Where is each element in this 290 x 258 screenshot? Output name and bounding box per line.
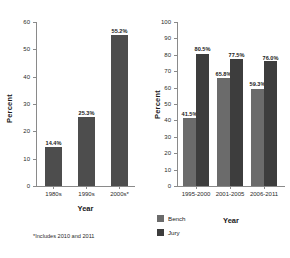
legend-swatch-bench-icon xyxy=(157,215,164,222)
left-plot-area: Percent 60 50 40 30 20 10 0 14.4% xyxy=(0,0,145,258)
right-y-tick xyxy=(174,170,177,171)
left-x-tick-label-1990s: 1990s xyxy=(68,191,105,198)
left-bar-2000s xyxy=(111,35,128,186)
left-y-tick xyxy=(33,131,36,132)
legend-label-bench: Bench xyxy=(168,214,186,223)
left-y-axis-line xyxy=(36,22,37,186)
right-bar-bench-2001-2005 xyxy=(217,78,230,186)
left-chart-footnote: *Includes 2010 and 2011 xyxy=(33,233,94,239)
left-y-tick-label: 0 xyxy=(8,183,30,189)
right-bar-bench-2006-2011 xyxy=(251,89,264,186)
left-y-tick xyxy=(33,159,36,160)
left-y-tick-label: 10 xyxy=(8,156,30,162)
right-x-tick xyxy=(264,186,265,189)
left-y-tick-label: 50 xyxy=(8,46,30,52)
left-x-tick xyxy=(53,186,54,189)
left-y-tick xyxy=(33,104,36,105)
right-y-tick-label: 0 xyxy=(149,183,171,189)
left-bar-1990s xyxy=(78,117,95,186)
right-y-tick-label: 40 xyxy=(149,117,171,123)
left-y-tick-label: 20 xyxy=(8,128,30,134)
right-y-tick xyxy=(174,153,177,154)
right-y-axis-line xyxy=(177,22,178,186)
right-bar-jury-2006-2011 xyxy=(264,61,277,186)
right-y-tick xyxy=(174,71,177,72)
left-y-tick xyxy=(33,77,36,78)
right-x-tick-label-2006-2011: 2006-2011 xyxy=(243,191,285,198)
left-x-tick xyxy=(119,186,120,189)
right-y-tick xyxy=(174,120,177,121)
right-bar-value-jury-2006-2011: 76.0% xyxy=(255,55,286,61)
right-plot-area: Percent 100 90 80 70 60 50 40 30 20 10 xyxy=(145,0,290,258)
left-bar-value-1980s: 14.4% xyxy=(35,140,72,146)
legend-swatch-jury-icon xyxy=(157,229,164,236)
right-y-tick xyxy=(174,137,177,138)
left-bar-value-2000s: 55.2% xyxy=(101,28,138,34)
left-x-tick xyxy=(86,186,87,189)
left-x-tick-label-2000s: 2000s* xyxy=(101,191,138,198)
right-y-tick-label: 90 xyxy=(149,35,171,41)
right-y-tick-label: 20 xyxy=(149,150,171,156)
right-y-tick-label: 10 xyxy=(149,167,171,173)
left-bar-value-1990s: 25.3% xyxy=(68,110,105,116)
left-y-tick-label: 60 xyxy=(8,19,30,25)
left-y-axis-title: Percent xyxy=(5,87,14,131)
left-y-tick-label: 30 xyxy=(8,101,30,107)
left-bar-1980s xyxy=(45,147,62,186)
right-y-tick xyxy=(174,104,177,105)
left-bar-chart: Percent 60 50 40 30 20 10 0 14.4% xyxy=(0,0,145,258)
right-y-tick-label: 50 xyxy=(149,101,171,107)
right-x-tick xyxy=(230,186,231,189)
right-y-tick-label: 80 xyxy=(149,52,171,58)
right-bar-value-jury-2001-2005: 77.5% xyxy=(221,52,252,58)
right-y-tick xyxy=(174,55,177,56)
left-y-tick xyxy=(33,49,36,50)
right-bar-jury-2001-2005 xyxy=(230,59,243,186)
legend: Bench Jury xyxy=(157,214,237,244)
right-y-tick xyxy=(174,22,177,23)
left-y-tick-label: 40 xyxy=(8,74,30,80)
right-y-tick-label: 100 xyxy=(149,19,171,25)
right-y-tick xyxy=(174,88,177,89)
right-y-tick-label: 70 xyxy=(149,68,171,74)
left-y-tick xyxy=(33,22,36,23)
right-bar-bench-1995-2000 xyxy=(183,118,196,186)
right-x-axis-line xyxy=(177,186,285,187)
left-x-axis-title: Year xyxy=(36,204,135,213)
right-grouped-bar-chart: Percent 100 90 80 70 60 50 40 30 20 10 xyxy=(145,0,290,258)
right-x-tick xyxy=(196,186,197,189)
right-y-tick-label: 30 xyxy=(149,134,171,140)
right-bar-value-jury-1995-2000: 80.5% xyxy=(187,46,218,52)
right-y-tick-label: 60 xyxy=(149,85,171,91)
right-y-tick xyxy=(174,38,177,39)
figure-container: Percent 60 50 40 30 20 10 0 14.4% xyxy=(0,0,290,258)
legend-label-jury: Jury xyxy=(168,228,180,237)
left-x-tick-label-1980s: 1980s xyxy=(35,191,72,198)
